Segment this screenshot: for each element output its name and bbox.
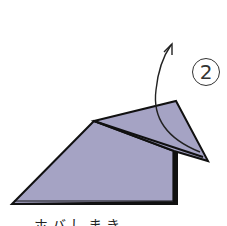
diagram-caption: ホバしまき [34,214,124,226]
step-number-badge: 2 [192,58,220,86]
origami-diagram [0,0,227,226]
